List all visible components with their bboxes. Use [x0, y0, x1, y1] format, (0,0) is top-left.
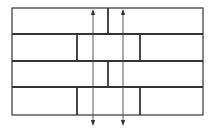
brick-course [12, 87, 203, 115]
brick-bond-diagram [0, 0, 215, 128]
right-arrow [121, 9, 125, 126]
arrow-down-icon [121, 120, 125, 126]
arrow-down-icon [91, 120, 95, 126]
brick-course [12, 34, 203, 61]
arrow-up-icon [91, 9, 95, 15]
arrow-up-icon [121, 9, 125, 15]
left-arrow [91, 9, 95, 126]
brick-courses [12, 8, 203, 115]
brick-course [12, 61, 203, 87]
